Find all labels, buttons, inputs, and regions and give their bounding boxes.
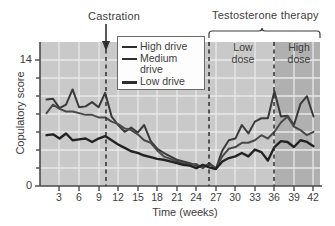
x-tick-label: 27 xyxy=(207,191,225,203)
y-tick-label-14: 14 xyxy=(14,53,32,65)
legend-item-medium-drive: Medium drive xyxy=(122,53,200,75)
x-tick-label: 24 xyxy=(187,191,205,203)
low-dose-annotation-label: Low dose xyxy=(222,42,264,65)
legend-label-medium-drive: Medium drive xyxy=(140,53,177,75)
x-tick-label: 12 xyxy=(109,191,127,203)
legend-item-low-drive: Low drive xyxy=(122,76,200,87)
chart-figure: Castration Testosterone therapy Low dose… xyxy=(0,0,335,226)
testosterone-therapy-bracket xyxy=(209,28,320,38)
low-dose-line-1: Low xyxy=(222,42,264,54)
low-dose-line-2: dose xyxy=(222,54,264,66)
high-dose-line-1: High xyxy=(278,42,320,54)
legend-swatch-medium-drive-icon xyxy=(122,58,137,60)
y-axis-title: Copulatory score xyxy=(14,58,26,168)
castration-annotation-label: Castration xyxy=(88,10,140,22)
legend-swatch-low-drive-icon xyxy=(122,81,137,84)
x-axis-title: Time (weeks) xyxy=(40,206,330,218)
chart-legend: High drive Medium drive Low drive xyxy=(117,36,205,90)
x-tick-label: 3 xyxy=(50,191,68,203)
x-tick-label: 6 xyxy=(70,191,88,203)
x-tick-label: 36 xyxy=(265,191,283,203)
legend-label-low-drive: Low drive xyxy=(140,76,185,87)
x-tick-label: 18 xyxy=(148,191,166,203)
x-tick-label: 42 xyxy=(304,191,322,203)
legend-swatch-high-drive-icon xyxy=(122,46,137,48)
x-tick-label: 15 xyxy=(129,191,147,203)
legend-label-medium-drive-line2: drive xyxy=(140,63,163,75)
y-tick-label-0: 0 xyxy=(14,179,32,191)
high-dose-line-2: dose xyxy=(278,54,320,66)
x-tick-label: 21 xyxy=(168,191,186,203)
high-dose-annotation-label: High dose xyxy=(278,42,320,65)
testosterone-therapy-annotation-label: Testosterone therapy xyxy=(212,9,319,21)
legend-item-high-drive: High drive xyxy=(122,41,200,52)
x-tick-label: 30 xyxy=(226,191,244,203)
x-tick-label: 39 xyxy=(285,191,303,203)
x-tick-label: 33 xyxy=(246,191,264,203)
legend-label-high-drive: High drive xyxy=(140,41,187,52)
x-tick-label: 9 xyxy=(90,191,108,203)
